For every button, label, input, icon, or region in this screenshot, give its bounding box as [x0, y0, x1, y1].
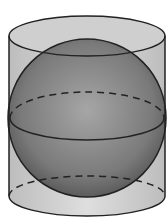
- diagram-canvas: [0, 0, 167, 221]
- sphere-in-cylinder-figure: [0, 0, 167, 221]
- sphere: [8, 39, 166, 197]
